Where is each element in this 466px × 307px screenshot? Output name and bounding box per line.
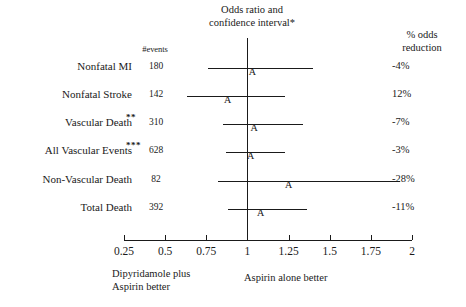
- row-label-3: All Vascular Events: [0, 144, 132, 158]
- x-tick-5: [330, 235, 331, 240]
- x-tick-label-0: 0.25: [104, 245, 144, 257]
- events-count-4: 82: [136, 174, 176, 184]
- x-tick-2: [206, 235, 207, 240]
- row-label-text: Non-Vascular Death: [0, 173, 132, 185]
- x-tick-0: [124, 235, 125, 240]
- x-tick-label-6: 1.75: [351, 245, 391, 257]
- ci-marker-2: A: [248, 122, 260, 133]
- events-count-5: 392: [136, 202, 176, 212]
- ci-line-4: [218, 181, 401, 182]
- events-count-0: 180: [136, 61, 176, 71]
- chart-title-line-2: confidence interval*: [178, 17, 326, 30]
- row-label-1: Nonfatal Stroke: [0, 88, 132, 102]
- left-direction-label-line-2: Aspirin better: [112, 281, 232, 294]
- ci-line-0: [208, 68, 313, 69]
- ci-line-1: [187, 96, 286, 97]
- row-label-4: Non-Vascular Death: [0, 173, 132, 187]
- events-count-2: 310: [136, 117, 176, 127]
- ci-marker-0: A: [246, 66, 258, 77]
- odds-reduction-header: % odds reduction: [382, 29, 462, 54]
- row-label-text: Nonfatal MI: [0, 60, 132, 72]
- x-tick-label-4: 1.25: [269, 245, 309, 257]
- ci-line-3: [226, 152, 285, 153]
- ci-line-5: [228, 209, 307, 210]
- odds-reduction-0: -4%: [392, 60, 448, 71]
- left-direction-label: Dipyridamole plus Aspirin better: [112, 268, 232, 293]
- row-label-text: Total Death: [0, 201, 132, 213]
- row-label-text: Vascular Death: [0, 116, 132, 128]
- forest-plot: Odds ratio and confidence interval* % od…: [0, 0, 466, 307]
- left-direction-label-line-1: Dipyridamole plus: [112, 268, 232, 281]
- x-tick-label-3: 1: [227, 245, 267, 257]
- ci-marker-4: A: [283, 179, 295, 190]
- x-tick-4: [289, 235, 290, 240]
- x-tick-label-1: 0.5: [145, 245, 185, 257]
- events-column-header: #events: [131, 44, 179, 54]
- x-tick-7: [412, 235, 413, 240]
- row-label-text: Nonfatal Stroke: [0, 88, 132, 100]
- odds-reduction-2: -7%: [392, 116, 448, 127]
- x-tick-label-5: 1.5: [310, 245, 350, 257]
- row-label-2: Vascular Death: [0, 116, 132, 130]
- row-label-0: Nonfatal MI: [0, 60, 132, 74]
- null-reference-line: [247, 38, 248, 240]
- x-tick-6: [371, 235, 372, 240]
- chart-title: Odds ratio and confidence interval*: [178, 4, 326, 29]
- ci-line-2: [223, 124, 304, 125]
- x-tick-label-2: 0.75: [186, 245, 226, 257]
- x-tick-3: [247, 235, 248, 240]
- events-count-3: 628: [136, 145, 176, 155]
- x-tick-label-7: 2: [392, 245, 432, 257]
- x-tick-1: [165, 235, 166, 240]
- odds-reduction-1: 12%: [392, 88, 448, 99]
- odds-reduction-header-line-1: % odds: [382, 29, 462, 42]
- row-label-text: All Vascular Events: [0, 144, 132, 156]
- right-direction-label: Aspirin alone better: [244, 272, 394, 283]
- x-axis-line: [124, 240, 412, 241]
- events-count-1: 142: [136, 89, 176, 99]
- chart-title-line-1: Odds ratio and: [178, 4, 326, 17]
- odds-reduction-5: -11%: [392, 201, 448, 212]
- odds-reduction-4: -28%: [392, 173, 448, 184]
- row-label-5: Total Death: [0, 201, 132, 215]
- odds-reduction-header-line-2: reduction: [382, 42, 462, 55]
- ci-marker-1: A: [222, 94, 234, 105]
- ci-marker-3: A: [245, 150, 257, 161]
- ci-marker-5: A: [255, 207, 267, 218]
- odds-reduction-3: -3%: [392, 144, 448, 155]
